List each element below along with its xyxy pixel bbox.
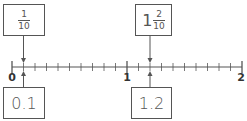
denominator: 10 — [18, 22, 29, 31]
arrow-head-up-icon — [148, 71, 153, 76]
fraction-one-tenth: 1 10 — [18, 10, 29, 31]
tick-label-0: 0 — [8, 71, 16, 84]
tick-label-2: 2 — [237, 71, 245, 84]
arrow-head-down-icon — [21, 58, 26, 63]
whole-part: 1 — [142, 11, 152, 30]
denominator: 10 — [153, 22, 164, 31]
tick-label-1: 1 — [123, 71, 131, 84]
decimal-box-1-2: 1.2 — [131, 87, 172, 119]
number-line-diagram: 1 10 1 2 10 0.1 1.2 0 1 2 — [0, 0, 247, 121]
fraction-two-tenths: 2 10 — [153, 10, 164, 31]
decimal-box-0-1: 0.1 — [3, 87, 45, 119]
mixed-number: 1 2 10 — [142, 10, 165, 31]
fraction-box-one-tenth: 1 10 — [3, 4, 45, 36]
fraction-box-one-and-two-tenths: 1 2 10 — [135, 4, 172, 36]
numerator: 2 — [155, 10, 163, 19]
arrow-head-up-icon — [21, 71, 26, 76]
arrow-head-down-icon — [148, 58, 153, 63]
numerator: 1 — [20, 10, 28, 19]
